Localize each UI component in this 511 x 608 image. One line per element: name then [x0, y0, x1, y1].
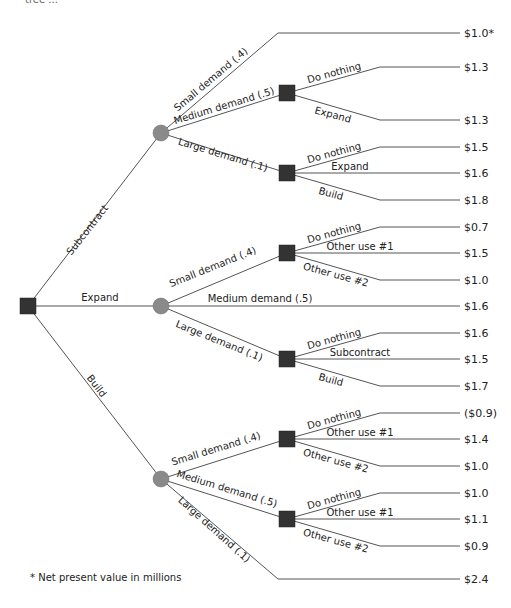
label-sub-med-expand: Expand [313, 104, 352, 124]
decision-node-build-medium [279, 511, 295, 527]
edge-exp-large [161, 306, 287, 359]
label-exp-large: Large demand (.1) [174, 318, 264, 363]
value-exp-large-subcontract: $1.5 [464, 353, 489, 366]
edge-sub-med-expand [287, 93, 460, 120]
label-exp-small-other2: Other use #2 [302, 261, 370, 289]
label-exp-large-build: Build [317, 371, 344, 388]
label-build-small-other1: Other use #1 [326, 427, 393, 438]
label-sub-large-build: Build [317, 185, 344, 202]
root-decision-node [20, 298, 36, 314]
label-expand: Expand [81, 292, 118, 303]
label-build-med-other1: Other use #1 [326, 507, 393, 518]
value-sub-med-expand: $1.3 [464, 114, 489, 127]
label-exp-small-other1: Other use #1 [326, 241, 393, 252]
value-build-large: $2.4 [464, 573, 489, 586]
chance-node-subcontract [153, 125, 169, 141]
value-sub-large-build: $1.8 [464, 194, 489, 207]
label-sub-large: Large demand (.1) [177, 136, 269, 174]
value-exp-medium: $1.6 [464, 300, 489, 313]
label-sub-large-expand: Expand [331, 161, 368, 172]
label-exp-large-subcontract: Subcontract [330, 347, 391, 358]
value-exp-small-donothing: $0.7 [464, 221, 489, 234]
label-exp-medium: Medium demand (.5) [208, 293, 313, 304]
label-sub-med-donothing: Do nothing [306, 60, 362, 85]
value-sub-large-donothing: $1.5 [464, 141, 489, 154]
value-build-med-donothing: $1.0 [464, 487, 489, 500]
value-sub-large-expand: $1.6 [464, 167, 489, 180]
decision-node-build-small [279, 431, 295, 447]
footnote: * Net present value in millions [30, 572, 181, 583]
edge-sub-large-build [287, 173, 460, 200]
decision-tree: Subcontract Expand Build Small demand (.… [0, 0, 511, 608]
value-exp-large-donothing: $1.6 [464, 327, 489, 340]
value-exp-small-other1: $1.5 [464, 247, 489, 260]
value-build-med-other1: $1.1 [464, 513, 489, 526]
edge-build [28, 306, 161, 479]
decision-node-exp-large [279, 351, 295, 367]
decision-node-sub-large [279, 165, 295, 181]
chance-node-build [153, 471, 169, 487]
value-sub-med-donothing: $1.3 [464, 61, 489, 74]
value-build-small-other1: $1.4 [464, 433, 489, 446]
label-build-small-other2: Other use #2 [302, 447, 370, 475]
edge-exp-large-build [287, 359, 460, 386]
label-build-med-other2: Other use #2 [302, 527, 370, 555]
decision-node-exp-small [279, 245, 295, 261]
value-build-med-other2: $0.9 [464, 540, 489, 553]
label-subcontract: Subcontract [64, 203, 110, 258]
decision-node-sub-medium [279, 85, 295, 101]
value-build-small-donothing: ($0.9) [464, 407, 497, 420]
value-exp-large-build: $1.7 [464, 380, 489, 393]
chance-node-expand [153, 298, 169, 314]
value-sub-small: $1.0* [464, 27, 494, 40]
value-build-small-other2: $1.0 [464, 460, 489, 473]
value-exp-small-other2: $1.0 [464, 274, 489, 287]
label-exp-small: Small demand (.4) [168, 244, 258, 289]
